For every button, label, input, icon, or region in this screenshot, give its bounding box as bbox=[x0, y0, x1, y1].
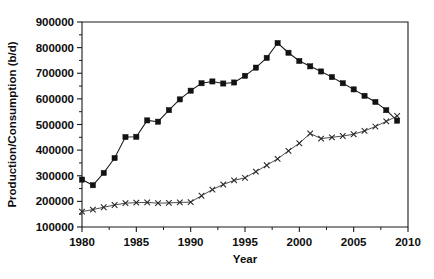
data-point-square bbox=[351, 87, 356, 92]
data-point-cross bbox=[253, 169, 259, 175]
data-point-cross bbox=[362, 128, 368, 134]
data-point-square bbox=[90, 183, 95, 188]
data-point-square bbox=[308, 64, 313, 69]
data-point-square bbox=[221, 81, 226, 86]
data-point-square bbox=[362, 93, 367, 98]
x-tick-label: 1995 bbox=[232, 236, 258, 248]
data-point-square bbox=[177, 97, 182, 102]
x-tick-label: 2000 bbox=[287, 236, 313, 248]
data-point-square bbox=[210, 79, 215, 84]
data-point-square bbox=[297, 58, 302, 63]
data-point-cross bbox=[210, 187, 216, 193]
data-point-square bbox=[395, 118, 400, 123]
data-point-cross bbox=[297, 140, 303, 146]
x-tick-label: 2010 bbox=[395, 236, 421, 248]
data-point-square bbox=[112, 155, 117, 160]
data-point-square bbox=[134, 134, 139, 139]
data-point-cross bbox=[199, 193, 205, 199]
data-point-square bbox=[373, 99, 378, 104]
y-tick-label: 900000 bbox=[36, 16, 74, 28]
data-point-cross bbox=[307, 131, 313, 137]
data-point-cross bbox=[275, 156, 281, 162]
y-tick-label: 600000 bbox=[36, 93, 74, 105]
data-point-square bbox=[286, 50, 291, 55]
series-markers-production bbox=[79, 40, 399, 187]
y-tick-label: 300000 bbox=[36, 170, 74, 182]
y-tick-label: 100000 bbox=[36, 221, 74, 233]
y-tick-label: 500000 bbox=[36, 119, 74, 131]
y-tick-label: 800000 bbox=[36, 42, 74, 54]
data-point-cross bbox=[264, 162, 270, 168]
data-point-square bbox=[329, 74, 334, 79]
data-point-square bbox=[318, 69, 323, 74]
data-point-square bbox=[155, 119, 160, 124]
data-point-square bbox=[253, 65, 258, 70]
data-point-cross bbox=[373, 124, 379, 130]
data-point-square bbox=[145, 118, 150, 123]
data-point-cross bbox=[383, 119, 389, 125]
data-point-square bbox=[275, 40, 280, 45]
y-tick-label: 400000 bbox=[36, 144, 74, 156]
data-point-square bbox=[79, 177, 84, 182]
series-line-production bbox=[82, 43, 397, 185]
data-point-cross bbox=[286, 148, 292, 154]
x-axis-title: Year bbox=[233, 253, 258, 265]
series-line-consumption bbox=[82, 116, 397, 212]
data-point-square bbox=[199, 81, 204, 86]
data-point-square bbox=[166, 108, 171, 113]
data-point-square bbox=[264, 55, 269, 60]
y-tick-label: 200000 bbox=[36, 195, 74, 207]
plot-frame bbox=[82, 22, 408, 227]
data-point-square bbox=[232, 80, 237, 85]
x-tick-label: 1990 bbox=[178, 236, 204, 248]
data-point-square bbox=[384, 108, 389, 113]
chart-container: 1000002000003000004000005000006000007000… bbox=[0, 0, 434, 279]
series-markers-consumption bbox=[79, 113, 400, 214]
line-chart: 1000002000003000004000005000006000007000… bbox=[0, 0, 434, 279]
x-tick-label: 1985 bbox=[124, 236, 150, 248]
y-axis-title: Production/Consumption (b/d) bbox=[6, 41, 18, 207]
x-tick-label: 2005 bbox=[341, 236, 367, 248]
data-point-square bbox=[101, 170, 106, 175]
data-point-cross bbox=[220, 182, 226, 188]
data-point-square bbox=[188, 88, 193, 93]
data-point-square bbox=[340, 81, 345, 86]
y-tick-label: 700000 bbox=[36, 67, 74, 79]
data-point-square bbox=[242, 73, 247, 78]
data-point-square bbox=[123, 134, 128, 139]
x-tick-label: 1980 bbox=[69, 236, 95, 248]
